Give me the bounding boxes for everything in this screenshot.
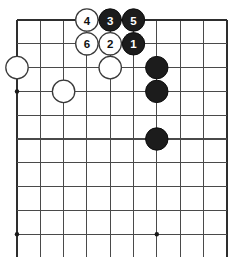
white-stone-left-upper[interactable] [6,56,28,78]
white-stone-center[interactable] [99,56,121,78]
move-stone-4[interactable]: 4 [76,9,98,31]
white-stone-body [6,56,28,78]
grid-lines [17,20,227,257]
white-stone-body [99,33,121,55]
move-stone-2[interactable]: 2 [99,33,121,55]
move-stone-6[interactable]: 6 [76,33,98,55]
white-stone-body [76,33,98,55]
black-stone-right-upper[interactable] [146,56,168,78]
black-stone-right-middle[interactable] [146,80,168,102]
black-stone-body [146,80,168,102]
black-stone-right-lower[interactable] [146,128,168,150]
black-stone-body [122,33,144,55]
black-stone-body [99,9,121,31]
move-stone-3[interactable]: 3 [99,9,121,31]
white-stone-body [52,80,74,102]
black-stone-body [146,128,168,150]
star-point-left-upper [15,89,19,93]
white-stone-body [76,9,98,31]
black-stone-body [122,9,144,31]
star-point-center-lower [155,232,159,236]
goban-grid[interactable]: 435621 [0,0,243,257]
black-stone-body [146,56,168,78]
white-stone-body [99,56,121,78]
go-board-diagram: 435621 [0,0,243,257]
white-stone-left-lower[interactable] [52,80,74,102]
move-stone-5[interactable]: 5 [122,9,144,31]
star-point-left-lower [15,232,19,236]
move-stone-1[interactable]: 1 [122,33,144,55]
